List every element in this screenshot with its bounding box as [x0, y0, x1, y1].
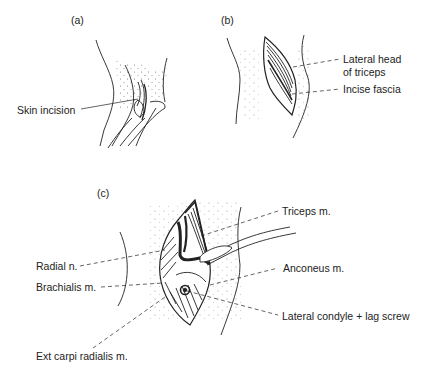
- lateral-condyle-label: Lateral condyle + lag screw: [282, 310, 410, 322]
- panel-b-label: (b): [221, 14, 234, 26]
- ext-carpi-label: Ext carpi radialis m.: [36, 350, 128, 362]
- panel-c-label: (c): [97, 187, 109, 199]
- panel-a-label: (a): [71, 14, 84, 26]
- radial-n-label: Radial n.: [36, 260, 77, 272]
- anconeus-label: Anconeus m.: [283, 262, 344, 274]
- panel-c-drawing: [118, 200, 296, 335]
- lateral-head-label-line1: Lateral head: [343, 53, 401, 65]
- lateral-head-label-line2: of triceps: [343, 66, 386, 78]
- triceps-label: Triceps m.: [282, 205, 331, 217]
- panel-a-drawing: [96, 40, 168, 148]
- incise-fascia-label: Incise fascia: [343, 83, 401, 95]
- skin-incision-label: Skin incision: [17, 104, 75, 116]
- panel-b-drawing: [227, 35, 312, 138]
- brachialis-label: Brachialis m.: [36, 281, 96, 293]
